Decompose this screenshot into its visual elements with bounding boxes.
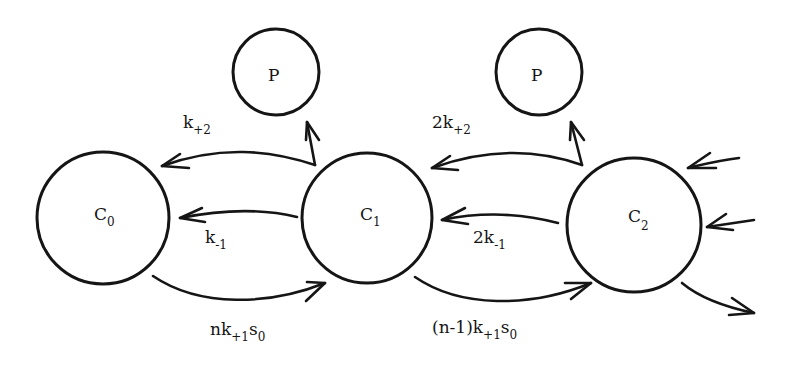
- label-2k-plus2: 2k+2: [432, 112, 471, 137]
- edge-c2-to-c1-2k-minus1: [442, 208, 558, 224]
- svg-text:C1: C1: [360, 204, 381, 229]
- edge-incoming-middle-to-c2: [707, 214, 754, 230]
- edge-c1-to-c2: [415, 277, 591, 301]
- node-c1: C1: [302, 153, 432, 283]
- edge-c0-to-c1: [153, 276, 325, 301]
- svg-text:C2: C2: [628, 206, 649, 233]
- edge-incoming-upper-to-c2: [688, 153, 739, 168]
- node-c2: C2: [567, 158, 701, 292]
- node-p-left: P: [233, 29, 319, 115]
- label-n-minus1-k-plus1-s0: (n-1)k+1s0: [432, 317, 517, 342]
- label-2k-minus1: 2k-1: [473, 227, 506, 252]
- label-k-minus1: k-1: [205, 227, 227, 252]
- svg-text:C0: C0: [94, 204, 115, 229]
- svg-text:P: P: [268, 65, 279, 85]
- edge-c2-to-p: [570, 122, 584, 165]
- node-c0: C0: [37, 152, 169, 284]
- edge-c1-to-p: [306, 122, 319, 165]
- edge-c2-to-c1-2k-plus2: [432, 153, 582, 170]
- node-p-right: P: [496, 29, 582, 115]
- edge-c1-to-c0-k-minus1: [180, 208, 297, 222]
- label-nk-plus1-s0: nk+1s0: [210, 319, 265, 344]
- svg-text:P: P: [531, 65, 542, 85]
- edge-outgoing-c2: [682, 283, 754, 315]
- edge-c1-to-c0-k-plus2: [162, 152, 315, 168]
- label-k-plus2: k+2: [183, 112, 211, 137]
- kinetic-scheme-diagram: C0 C1 C2 P P k+2 k-1: [0, 0, 795, 367]
